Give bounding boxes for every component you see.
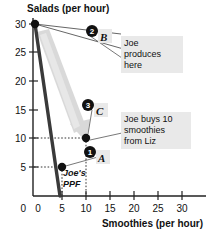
callout-joe-produces-here: Joe produces here (121, 36, 183, 73)
chart-figure: Salads (per hour) Smoothies (per hour) 3… (0, 0, 210, 240)
point-b-letter: B (99, 31, 107, 43)
point-a-letter: A (97, 152, 105, 164)
callout-joe-buys-smoothies: Joe buys 10 smoothies from Liz (121, 112, 191, 149)
page-footer-strip (0, 233, 210, 240)
point-c-letter: C (96, 105, 104, 117)
